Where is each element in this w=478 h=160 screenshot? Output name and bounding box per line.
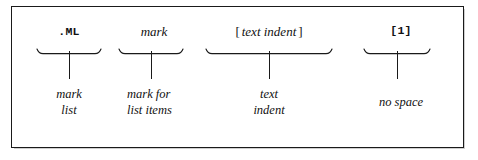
callout-group-no-space: [1] no space <box>342 7 460 147</box>
syntax-label-text: text indent <box>242 24 297 39</box>
caption-line: mark for <box>127 86 172 102</box>
brace-stem-mark <box>151 51 152 79</box>
caption-line: list <box>18 102 120 118</box>
callout-group-mark-list: .ML mark list <box>18 7 120 147</box>
figure-frame: .ML mark list mark mark for <box>11 6 464 148</box>
caption-mark: mark for list items <box>127 86 172 118</box>
brace-no-space <box>342 45 460 57</box>
syntax-label-mark-list: .ML <box>18 25 120 39</box>
brace-icon <box>342 45 460 57</box>
syntax-label-mark: mark <box>109 25 199 39</box>
bracket-close: ] <box>298 24 302 39</box>
callout-group-mark: mark mark for list items <box>109 7 199 147</box>
caption-no-space: no space <box>342 94 460 110</box>
caption-line: list items <box>127 102 172 118</box>
brace-mark <box>109 45 199 57</box>
callout-group-text-indent: [text indent] text indent <box>194 7 344 147</box>
syntax-label-text-indent: [text indent] <box>194 25 344 39</box>
caption-mark-list: mark list <box>18 86 120 118</box>
figure-page: .ML mark list mark mark for <box>0 0 478 160</box>
caption-line: text <box>194 86 344 102</box>
caption-line: mark <box>18 86 120 102</box>
caption-line: indent <box>194 102 344 118</box>
brace-icon <box>109 45 199 57</box>
bracket-open: [ <box>235 24 239 39</box>
brace-stem-no-space <box>397 51 398 79</box>
syntax-label-no-space: [1] <box>342 24 460 38</box>
brace-stem-text-indent <box>269 51 270 79</box>
caption-text-indent: text indent <box>194 86 344 118</box>
brace-stem-mark-list <box>69 51 70 79</box>
caption-line: no space <box>342 94 460 110</box>
